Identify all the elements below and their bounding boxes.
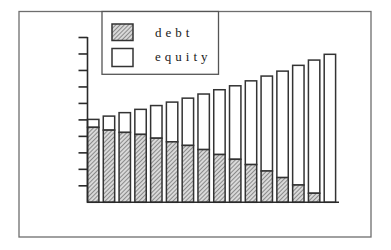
bar-equity-segment bbox=[245, 81, 256, 165]
bar-equity-segment bbox=[293, 65, 304, 185]
bar-equity-segment bbox=[308, 60, 319, 193]
bar-equity-segment bbox=[214, 90, 225, 155]
bar-debt-segment bbox=[103, 130, 114, 202]
bar-debt-segment bbox=[261, 171, 272, 202]
stacked-bar-chart: debt equity bbox=[0, 0, 391, 250]
bars-group bbox=[88, 54, 336, 202]
y-axis-ticks bbox=[79, 38, 88, 186]
bar-debt-segment bbox=[230, 159, 241, 202]
bar-equity-segment bbox=[324, 54, 335, 202]
bar-debt-segment bbox=[166, 142, 177, 202]
bar-debt-segment bbox=[119, 132, 130, 202]
bar-equity-segment bbox=[261, 76, 272, 171]
bar-debt-segment bbox=[308, 193, 319, 202]
bar-equity-segment bbox=[119, 113, 130, 133]
bar-debt-segment bbox=[135, 134, 146, 202]
bar-equity-segment bbox=[151, 106, 162, 139]
bar-debt-segment bbox=[151, 138, 162, 202]
bar-debt-segment bbox=[214, 155, 225, 203]
bar-equity-segment bbox=[277, 71, 288, 177]
bar-equity-segment bbox=[103, 116, 114, 130]
bar-equity-segment bbox=[230, 86, 241, 160]
legend-swatch-debt bbox=[112, 24, 133, 41]
bar-debt-segment bbox=[277, 178, 288, 203]
bar-equity-segment bbox=[135, 109, 146, 134]
bar-debt-segment bbox=[182, 145, 193, 202]
legend-label-equity: equity bbox=[155, 49, 212, 64]
bar-debt-segment bbox=[245, 165, 256, 203]
bar-equity-segment bbox=[198, 94, 209, 150]
legend: debt equity bbox=[102, 12, 219, 75]
bar-debt-segment bbox=[293, 185, 304, 202]
bar-debt-segment bbox=[198, 150, 209, 203]
bar-equity-segment bbox=[88, 119, 99, 127]
bar-equity-segment bbox=[166, 102, 177, 142]
legend-swatch-equity bbox=[112, 49, 133, 67]
bar-equity-segment bbox=[182, 98, 193, 145]
bar-debt-segment bbox=[88, 127, 99, 202]
legend-label-debt: debt bbox=[155, 25, 193, 40]
